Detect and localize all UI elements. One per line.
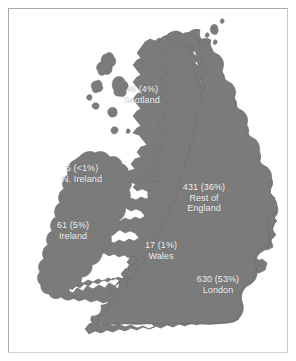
isle-of-skye-island [112, 77, 128, 97]
arran-island [126, 129, 130, 134]
hebrides-island-south [91, 80, 103, 93]
hebrides-island-tiny-a [87, 95, 93, 101]
outer-hebrides-island [97, 53, 116, 76]
islay-island [111, 127, 118, 134]
orkney-island-a [201, 42, 208, 49]
isle-of-wight-island [214, 310, 220, 315]
uk-ireland-map [9, 9, 287, 352]
anglesey-island [139, 221, 146, 228]
map-figure: 46 (4%) Scotland 5 (<1%) N. Ireland 431 … [0, 0, 296, 361]
shetland-island-b [220, 19, 224, 24]
orkney-island-b [213, 40, 217, 45]
shetland-island-c [205, 33, 209, 38]
shetland-island-main [210, 24, 218, 34]
hebrides-island-tiny-b [92, 103, 99, 110]
mull-island [108, 107, 118, 117]
